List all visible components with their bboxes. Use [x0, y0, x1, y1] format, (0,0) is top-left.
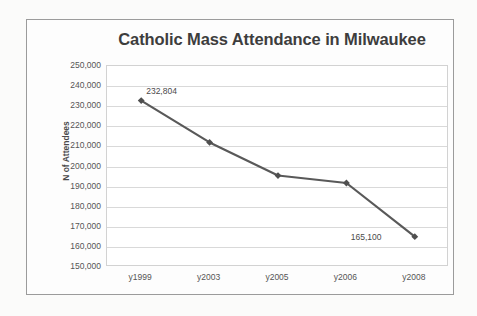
chart-page: Catholic Mass Attendance in Milwaukee N … — [0, 0, 477, 316]
y-axis-tick-label: 170,000 — [45, 221, 101, 231]
series-line-chart — [107, 66, 449, 267]
data-point-label: 165,100 — [351, 232, 382, 242]
y-axis-tick-label: 180,000 — [45, 201, 101, 211]
y-axis-tick-label: 240,000 — [45, 80, 101, 90]
chart-title: Catholic Mass Attendance in Milwaukee — [97, 30, 447, 49]
data-point-label: 232,804 — [146, 86, 177, 96]
y-axis-tick-label: 220,000 — [45, 120, 101, 130]
x-axis-tick-label: y2003 — [174, 272, 244, 282]
chart-frame: Catholic Mass Attendance in Milwaukee N … — [26, 19, 454, 295]
y-axis-tick-label: 150,000 — [45, 261, 101, 271]
y-axis-tick-label: 230,000 — [45, 100, 101, 110]
x-axis-tick-label: y1999 — [105, 272, 175, 282]
series-line — [141, 101, 415, 237]
x-axis-tick-label: y2006 — [310, 272, 380, 282]
x-axis-tick-label: y2008 — [379, 272, 449, 282]
y-axis-tick-label: 200,000 — [45, 161, 101, 171]
y-axis-tick-label: 250,000 — [45, 60, 101, 70]
y-axis-tick-label: 210,000 — [45, 140, 101, 150]
y-axis-tick-label: 160,000 — [45, 241, 101, 251]
y-axis-tick-label: 190,000 — [45, 181, 101, 191]
x-axis-tick-label: y2005 — [242, 272, 312, 282]
